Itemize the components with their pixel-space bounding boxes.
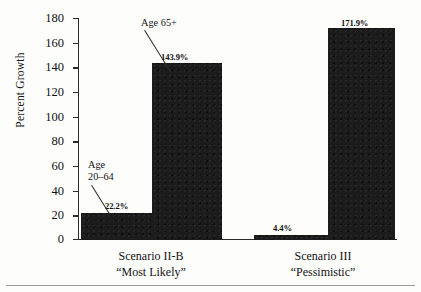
leader-line-age-20-64: [91, 185, 109, 214]
y-tick-140: 140: [73, 67, 79, 68]
category-label-scenario-3-line1: Scenario III: [295, 249, 352, 263]
plot-area: 180 160 140 120 100 80 60 40 20 0: [81, 18, 395, 240]
annotation-age-65-plus: Age 65+: [141, 17, 177, 29]
y-tick-20: 20: [73, 215, 79, 216]
y-tick-label-100: 100: [18, 110, 64, 123]
y-axis-line: [78, 18, 79, 240]
value-label-143-9: 143.9%: [161, 52, 188, 62]
y-tick-label-140: 140: [18, 61, 64, 74]
category-label-scenario-2b-line1: Scenario II-B: [119, 249, 184, 263]
value-label-171-9: 171.9%: [341, 18, 368, 28]
y-tick-label-120: 120: [18, 86, 64, 99]
annotation-age-20-64-line1: Age: [88, 159, 105, 170]
y-tick-0: 0: [73, 239, 79, 240]
y-tick-80: 80: [73, 141, 79, 142]
bar-chart-figure: Percent Growth 180 160 140 120 100 80 60…: [0, 0, 421, 292]
y-tick-60: 60: [73, 166, 79, 167]
bar-scenario3-age20-64: [254, 235, 328, 240]
y-tick-label-40: 40: [18, 184, 64, 197]
annotation-age-20-64-line2: 20–64: [88, 171, 114, 183]
y-tick-160: 160: [73, 43, 79, 44]
bar-scenario2b-age20-64: [81, 213, 152, 240]
category-label-scenario-3-line2: “Pessimistic”: [291, 265, 356, 279]
category-label-scenario-3: Scenario III “Pessimistic”: [245, 249, 401, 280]
annotation-age-20-64: Age 20–64: [88, 159, 114, 182]
page-divider-rule: [6, 285, 415, 286]
value-label-22-2: 22.2%: [105, 201, 128, 211]
y-tick-100: 100: [73, 117, 79, 118]
y-tick-180: 180: [73, 18, 79, 19]
category-label-scenario-2b-line2: “Most Likely”: [116, 265, 186, 279]
value-label-4-4: 4.4%: [273, 223, 292, 233]
category-label-scenario-2b: Scenario II-B “Most Likely”: [73, 249, 229, 280]
y-tick-40: 40: [73, 191, 79, 192]
bar-scenario2b-age65plus: [152, 63, 222, 241]
y-tick-label-0: 0: [18, 233, 64, 246]
y-tick-label-20: 20: [18, 209, 64, 222]
y-tick-label-60: 60: [18, 160, 64, 173]
y-tick-label-160: 160: [18, 36, 64, 49]
y-tick-label-180: 180: [18, 12, 64, 25]
y-tick-120: 120: [73, 92, 79, 93]
bar-scenario3-age65plus: [328, 28, 395, 240]
y-tick-label-80: 80: [18, 135, 64, 148]
